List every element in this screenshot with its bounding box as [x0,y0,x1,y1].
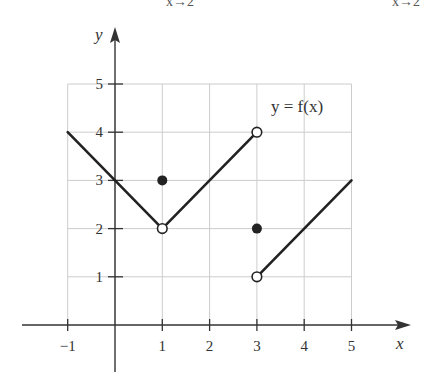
y-axis-label: y [93,25,103,44]
x-tick-label: 3 [253,338,261,354]
function-graph: x→2 x→2 −112345 12345 y x y = f(x) [0,0,425,381]
y-tick-label: 4 [96,124,104,140]
closed-point-icon [252,224,262,234]
y-tick-label: 3 [96,172,104,188]
x-tick-label: 5 [348,338,356,354]
x-tick-labels: −112345 [60,338,356,354]
closed-point-icon [157,175,167,185]
clipped-header-text: x→2 x→2 [166,0,420,9]
x-tick-label: 1 [159,338,167,354]
curve-label: y = f(x) [271,97,323,116]
open-point-icon [252,127,262,137]
y-tick-label: 1 [96,269,104,285]
open-point-icon [252,272,262,282]
axes [22,27,411,372]
clipped-limit-subscript-left: x→2 [166,0,194,9]
open-point-icon [158,224,168,234]
y-tick-label: 5 [96,76,104,92]
y-tick-label: 2 [96,221,104,237]
x-axis-label: x [395,334,404,353]
x-tick-label: 4 [300,338,308,354]
y-tick-labels: 12345 [96,76,104,285]
x-tick-label: 2 [206,338,214,354]
x-tick-label: −1 [60,338,76,354]
clipped-limit-subscript-right: x→2 [392,0,420,9]
grid [68,84,352,325]
